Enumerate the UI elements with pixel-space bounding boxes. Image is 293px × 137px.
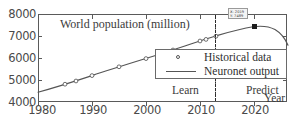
learn-region-label: Learn	[172, 84, 199, 96]
chart-screenshot: 8000 7000 6000 5000 4000 1980 1990 2000 …	[0, 0, 293, 137]
legend-label-historical-data: Historical data	[204, 50, 271, 65]
datatip-y-value: 7489	[234, 14, 243, 18]
circle-marker-icon	[164, 50, 200, 65]
legend-label-neuronet-output: Neuronet output	[204, 64, 279, 79]
x-axis-title: Year	[264, 92, 285, 104]
datatip-y-row: Y: 7489	[230, 14, 243, 19]
legend-entry-historical-data: Historical data	[156, 50, 286, 65]
datatip-x-key: X:	[230, 10, 234, 14]
datatip-x-value: 2019	[235, 10, 244, 14]
line-sample-icon	[164, 64, 200, 79]
peak-datatip-annotation: X: 2019 Y: 7489	[228, 8, 248, 19]
peak-data-marker[interactable]	[252, 24, 257, 29]
chart-legend: Historical data Neuronet output	[155, 49, 287, 79]
legend-entry-neuronet-output: Neuronet output	[156, 64, 286, 79]
datatip-y-key: Y:	[230, 14, 233, 18]
